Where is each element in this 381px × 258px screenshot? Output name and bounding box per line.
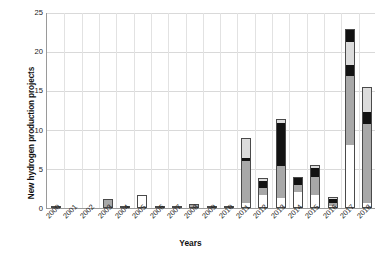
bar-segment-light-gray <box>345 42 355 66</box>
x-gridline <box>272 13 273 208</box>
y-axis-tick-label: 20 <box>9 47 43 56</box>
x-axis-tick-label: 2016 <box>321 214 327 220</box>
y-gridline <box>47 13 375 14</box>
y-axis-tick-label: 25 <box>9 8 43 17</box>
x-axis-tick-label: 2009 <box>200 214 206 220</box>
x-axis-title: Years <box>0 238 381 248</box>
y-gridline <box>47 130 375 131</box>
x-axis-tick-label: 2013 <box>269 214 275 220</box>
x-axis-tick-label: 2011 <box>234 214 240 220</box>
bar-segment-light-gray <box>258 178 268 181</box>
x-axis-tick-label: 2002 <box>78 214 84 220</box>
x-gridline <box>186 13 187 208</box>
bar-2015[interactable] <box>310 165 320 208</box>
x-gridline <box>116 13 117 208</box>
x-axis-tick-label: 2008 <box>182 214 188 220</box>
x-axis-tick-label: 2015 <box>303 214 309 220</box>
plot-area: 0510152025 <box>46 13 375 209</box>
x-gridline <box>203 13 204 208</box>
x-gridline <box>237 13 238 208</box>
x-axis-tick-label: 2012 <box>251 214 257 220</box>
x-gridline <box>255 13 256 208</box>
x-gridline <box>82 13 83 208</box>
bar-segment-light-gray <box>276 119 286 124</box>
bar-segment-gray <box>258 188 268 195</box>
x-gridline <box>168 13 169 208</box>
bar-segment-black <box>310 168 320 177</box>
bar-segment-gray <box>362 124 372 202</box>
bar-segment-light-gray <box>328 197 338 199</box>
y-gridline <box>47 91 375 92</box>
bar-segment-gray <box>276 166 286 198</box>
bar-segment-black <box>258 181 268 188</box>
x-gridline <box>151 13 152 208</box>
y-axis-tick-label: 15 <box>9 86 43 95</box>
bar-segment-black <box>293 177 303 185</box>
bar-2013[interactable] <box>276 119 286 208</box>
bar-segment-white <box>345 145 355 208</box>
x-gridline <box>289 13 290 208</box>
x-axis-tick-label: 2014 <box>286 214 292 220</box>
x-gridline <box>64 13 65 208</box>
x-gridline <box>99 13 100 208</box>
x-axis-tick-label: 2004 <box>113 214 119 220</box>
bar-segment-gray <box>241 161 251 203</box>
x-gridline <box>220 13 221 208</box>
bar-2017[interactable] <box>345 29 355 208</box>
bar-segment-light-gray <box>310 165 320 168</box>
x-axis-tick-label: 2018 <box>355 214 361 220</box>
y-gridline <box>47 52 375 53</box>
bar-segment-black <box>362 112 372 125</box>
bar-segment-black <box>276 123 286 165</box>
bar-2011[interactable] <box>241 138 251 208</box>
bar-segment-black <box>345 65 355 75</box>
x-axis-tick-label: 2007 <box>165 214 171 220</box>
bar-segment-gray <box>310 177 320 195</box>
y-gridline <box>47 169 375 170</box>
x-gridline <box>324 13 325 208</box>
x-gridline <box>134 13 135 208</box>
x-axis-tick-label: 2001 <box>61 214 67 220</box>
bar-segment-black-top <box>345 29 355 42</box>
bar-segment-light-gray <box>362 87 372 112</box>
x-gridline <box>359 13 360 208</box>
bar-2018[interactable] <box>362 87 372 208</box>
y-axis-tick-label: 10 <box>9 126 43 135</box>
bar-segment-gray <box>345 76 355 146</box>
x-axis-tick-label: 2003 <box>96 214 102 220</box>
y-axis-tick-label: 5 <box>9 165 43 174</box>
bar-segment-light-gray <box>241 138 251 158</box>
bar-segment-gray <box>293 185 303 192</box>
chart-figure: New hydrogen production projects capacit… <box>0 0 381 258</box>
x-axis-tick-label: 2017 <box>338 214 344 220</box>
y-axis-tick-label: 0 <box>9 204 43 213</box>
x-axis-tick-label: 2005 <box>130 214 136 220</box>
x-axis-tick-label: 2010 <box>217 214 223 220</box>
x-axis-tick-label: 2006 <box>148 214 154 220</box>
bar-segment-black <box>241 158 251 161</box>
x-gridline <box>341 13 342 208</box>
x-gridline <box>307 13 308 208</box>
